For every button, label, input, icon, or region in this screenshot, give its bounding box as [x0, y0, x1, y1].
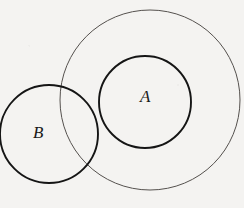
set-label-b: B — [33, 124, 43, 141]
set-label-a: A — [140, 88, 150, 105]
set-diagram-figure: A B — [0, 0, 244, 208]
diagram-canvas — [0, 0, 244, 208]
circle-b — [0, 85, 98, 183]
